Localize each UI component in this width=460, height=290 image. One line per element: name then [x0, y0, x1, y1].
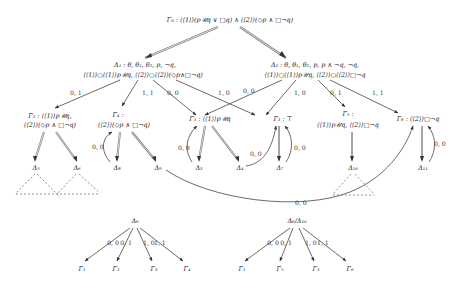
edge-g1-d3: [197, 126, 205, 162]
tableau-diagram: Γ₀ : ⟨⟨1⟩⟩(p𝒰q ∨ □q) ∧ ⟨⟨2⟩⟩(◇p ∧ □¬q) Δ…: [0, 0, 460, 290]
label-d1-g3: 1, 0: [218, 89, 230, 96]
leaf-bl-2: Γ₂: [112, 265, 120, 273]
leaf-br-1: Γ₁: [238, 265, 246, 273]
edge-root-d1: [145, 27, 218, 58]
node-gamma2-line1: Γ₂ : ⟨⟨1⟩⟩p𝒰q,: [27, 112, 71, 120]
node-gamma3: Γ₃ : ⊤: [272, 115, 292, 123]
leaf-bl-1: Γ₁: [78, 265, 86, 273]
leaf-br-4: Γ₆: [346, 265, 354, 273]
label-d8-g4: 0, 0: [92, 143, 104, 150]
node-delta2-line2: ⟨⟨1⟩⟩○⟨⟨1⟩⟩p𝒰q, ⟨⟨2⟩⟩○⟨⟨2⟩⟩□¬q: [264, 71, 365, 79]
label-d2-g6: 1, 1: [372, 89, 384, 96]
node-gamma6: Γ₆ : ⟨⟨2⟩⟩□¬q: [396, 115, 440, 123]
node-delta7: Δ₇: [275, 164, 284, 172]
label-bl-1: 0, 0: [107, 239, 119, 246]
node-delta9: Δ₉: [153, 164, 162, 172]
edge-d2-g6: [330, 80, 398, 113]
edge-root-d2: [240, 27, 286, 58]
node-bottom-right-root: Δ₆/Δ₁₀: [286, 217, 307, 225]
node-delta1-line2: ⟨⟨1⟩⟩○⟨⟨1⟩⟩p𝒰q, ⟨⟨2⟩⟩○⟨⟨2⟩⟩(◇p∧□¬q): [83, 71, 203, 79]
node-gamma5-line2: ⟨⟨1⟩⟩p𝒰q, ⟨⟨2⟩⟩□¬q: [317, 121, 379, 129]
edge-d8-g4: [103, 132, 112, 162]
edge-g4-d8: [115, 132, 120, 162]
label-d11-g6: 0, 0: [434, 140, 446, 147]
label-d1-g4: 1, 1: [142, 89, 154, 96]
label-br-1: 0, 0: [267, 239, 279, 246]
label-br-3: 1, 0: [305, 239, 317, 246]
leaf-bl-3: Γ₃: [150, 265, 158, 273]
node-gamma4-line1: Γ₄ :: [111, 111, 123, 119]
leaf-bl-4: Γ₄: [183, 265, 191, 273]
node-gamma4-line2: ⟨⟨2⟩⟩(◇p ∧ □¬q): [98, 121, 151, 129]
node-delta8: Δ₈: [112, 164, 121, 172]
node-gamma0: Γ₀ : ⟨⟨1⟩⟩(p𝒰q ∨ □q) ∧ ⟨⟨2⟩⟩(◇p ∧ □¬q): [166, 16, 294, 24]
edge-d7-g3: [285, 126, 292, 162]
label-d1-g2: 0, 1: [70, 89, 82, 96]
label-bl-2: 0, 1: [120, 239, 132, 246]
edge-g5-d10: [350, 132, 354, 162]
dashed-triangles-left: [16, 174, 100, 197]
label-d2-g1: 0, 0: [243, 87, 255, 94]
label-br-4: 1, 1: [317, 239, 329, 246]
label-bl-4: 1, 1: [154, 239, 166, 246]
label-br-2: 0, 1: [280, 239, 292, 246]
node-gamma2-line2: ⟨⟨2⟩⟩(◇p ∧ □¬q): [24, 121, 77, 129]
label-d7-g3: 0, 0: [294, 144, 306, 151]
edge-g2-d5: [33, 132, 44, 162]
label-d3-g1: 0, 0: [178, 144, 190, 151]
edge-g6-d11: [420, 126, 424, 162]
label-d4-g3: 0, 0: [250, 150, 262, 157]
leaf-br-3: Γ₃: [312, 265, 320, 273]
node-bottom-left-root: Δ₆: [130, 217, 139, 225]
node-delta10: Δ₁₀: [347, 164, 358, 172]
label-d1-g1: 0, 0: [167, 89, 179, 96]
leaf-br-2: Γ₅: [276, 265, 284, 273]
edge-g4-d9: [132, 132, 156, 162]
label-d2-g3: 1, 0: [294, 89, 306, 96]
node-gamma5-line1: Γ₅ :: [341, 110, 353, 118]
node-delta4: Δ₄: [235, 164, 244, 172]
edge-g1-d4: [212, 126, 239, 162]
node-delta6: Δ₆: [72, 164, 81, 172]
label-d9-g6: 0, 0: [295, 199, 307, 206]
node-delta3: Δ₃: [194, 164, 203, 172]
label-d2-g5: 0, 1: [330, 89, 342, 96]
node-delta2-line1: Δ₂ : θ, θ₁, θ₂, p, p ∧ ¬q, ¬q,: [270, 61, 359, 69]
edge-d1-g1: [153, 80, 196, 115]
node-gamma1: Γ₁ : ⟨⟨1⟩⟩p𝒰q: [188, 115, 230, 123]
edge-g2-d6: [56, 132, 77, 162]
dashed-triangle-d10: [333, 174, 374, 195]
node-delta5: Δ₅: [31, 164, 40, 172]
node-delta11: Δ₁₁: [417, 164, 428, 172]
edge-d1-g4: [122, 80, 138, 106]
edge-d1-g2: [55, 80, 120, 108]
edge-d4-g3: [246, 126, 276, 166]
node-delta1-line1: Δ₁ : θ, θ₁, θ₂, p, ¬q,: [113, 61, 176, 69]
edge-g3-d7: [277, 126, 281, 162]
